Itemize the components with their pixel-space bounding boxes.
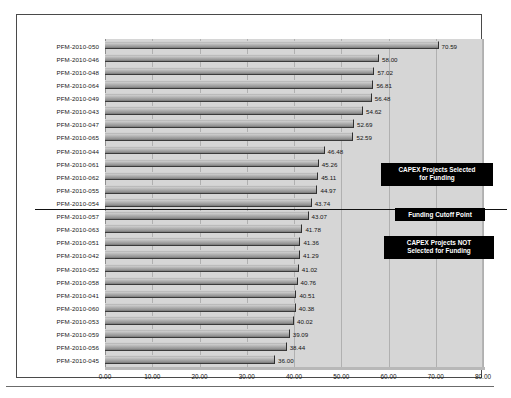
bar-value-label: 70.59 (442, 42, 457, 49)
bar-row: PFM-2010-04536.00 (17, 354, 511, 367)
annotation-capex-selected: CAPEX Projects Selected for Funding (381, 163, 493, 186)
bar-value-label: 40.76 (301, 278, 316, 285)
bar (105, 329, 290, 338)
page-divider-rule (6, 386, 494, 387)
bar-value-label: 38.44 (290, 344, 305, 351)
bar (105, 146, 325, 155)
bar (105, 67, 374, 76)
bar (105, 80, 373, 89)
category-label: PFM-2010-056 (17, 344, 99, 351)
bar (105, 106, 363, 115)
bar-value-label: 58.00 (382, 55, 397, 62)
category-label: PFM-2010-051 (17, 239, 99, 246)
category-label: PFM-2010-054 (17, 199, 99, 206)
bar-row: PFM-2010-04956.48 (17, 91, 511, 104)
category-label: PFM-2010-047 (17, 121, 99, 128)
x-axis-tick-labels: 0.0010.0020.0030.0040.0050.0060.0070.008… (17, 373, 511, 387)
category-label: PFM-2010-060 (17, 304, 99, 311)
bar-value-label: 56.48 (375, 95, 390, 102)
bar (105, 132, 353, 141)
bar (105, 119, 354, 128)
category-label: PFM-2010-048 (17, 68, 99, 75)
bar (105, 54, 379, 63)
category-label: PFM-2010-044 (17, 147, 99, 154)
category-label: PFM-2010-065 (17, 134, 99, 141)
category-label: PFM-2010-062 (17, 173, 99, 180)
bar-row: PFM-2010-04140.51 (17, 288, 511, 301)
bar-row: PFM-2010-06456.81 (17, 78, 511, 91)
category-label: PFM-2010-057 (17, 213, 99, 220)
bar-row: PFM-2010-06040.38 (17, 301, 511, 314)
bar-value-label: 40.51 (299, 291, 314, 298)
bar-rows: PFM-2010-05070.59PFM-2010-04658.00PFM-20… (17, 39, 511, 367)
category-label: PFM-2010-053 (17, 318, 99, 325)
category-label: PFM-2010-064 (17, 81, 99, 88)
bar-value-label: 52.69 (357, 121, 372, 128)
bar (105, 290, 296, 299)
bar-value-label: 39.09 (293, 331, 308, 338)
bar-value-label: 57.02 (377, 68, 392, 75)
bar (105, 303, 296, 312)
bar-row: PFM-2010-04658.00 (17, 52, 511, 65)
bar (105, 185, 317, 194)
x-tick-label: 50.00 (333, 373, 349, 380)
bar-row: PFM-2010-04446.48 (17, 144, 511, 157)
bar-row: PFM-2010-05638.44 (17, 341, 511, 354)
chart-frame: PFM-2010-05070.59PFM-2010-04658.00PFM-20… (16, 14, 482, 378)
category-label: PFM-2010-046 (17, 55, 99, 62)
x-tick-label: 20.00 (192, 373, 208, 380)
bar-value-label: 36.00 (278, 357, 293, 364)
bar-value-label: 54.62 (366, 108, 381, 115)
bar-value-label: 45.26 (322, 160, 337, 167)
bar-value-label: 46.48 (328, 147, 343, 154)
bar-value-label: 41.36 (303, 239, 318, 246)
bar (105, 224, 302, 233)
category-label: PFM-2010-059 (17, 331, 99, 338)
bar (105, 237, 300, 246)
bar-row: PFM-2010-04857.02 (17, 65, 511, 78)
bar-value-label: 41.02 (302, 265, 317, 272)
category-label: PFM-2010-058 (17, 278, 99, 285)
bar (105, 277, 298, 286)
bar-value-label: 52.59 (356, 134, 371, 141)
bar (105, 316, 294, 325)
x-tick-label: 40.00 (286, 373, 302, 380)
category-label: PFM-2010-042 (17, 252, 99, 259)
x-tick-label: 60.00 (381, 373, 397, 380)
bar (105, 93, 372, 102)
bar (105, 41, 439, 50)
bar-value-label: 41.78 (305, 226, 320, 233)
category-label: PFM-2010-063 (17, 226, 99, 233)
category-label: PFM-2010-052 (17, 265, 99, 272)
annotation-capex-not-selected: CAPEX Projects NOT Selected for Funding (384, 236, 494, 259)
bar-value-label: 45.11 (321, 173, 336, 180)
bar-value-label: 40.02 (297, 318, 312, 325)
bar-value-label: 43.74 (315, 199, 330, 206)
bar-value-label: 41.29 (303, 252, 318, 259)
x-tick-label: 80.00 (475, 373, 491, 380)
bar-row: PFM-2010-05340.02 (17, 315, 511, 328)
plot-area-shadow (105, 367, 485, 370)
bar-row: PFM-2010-06552.59 (17, 131, 511, 144)
category-label: PFM-2010-045 (17, 357, 99, 364)
bar (105, 264, 299, 273)
category-label: PFM-2010-041 (17, 291, 99, 298)
bar (105, 250, 300, 259)
x-tick-label: 30.00 (239, 373, 255, 380)
category-label: PFM-2010-055 (17, 186, 99, 193)
bar-value-label: 44.97 (320, 186, 335, 193)
bar (105, 342, 287, 351)
bar (105, 159, 319, 168)
bar (105, 355, 275, 364)
category-label: PFM-2010-050 (17, 42, 99, 49)
x-tick-label: 0.00 (99, 373, 111, 380)
bar-row: PFM-2010-05241.02 (17, 262, 511, 275)
annotation-funding-cutoff-point: Funding Cutoff Point (395, 208, 485, 221)
category-label: PFM-2010-043 (17, 108, 99, 115)
bar-row: PFM-2010-04752.69 (17, 118, 511, 131)
bar (105, 211, 309, 220)
bar-value-label: 43.07 (312, 213, 327, 220)
bar-value-label: 56.81 (376, 81, 391, 88)
bar-row: PFM-2010-04354.62 (17, 105, 511, 118)
